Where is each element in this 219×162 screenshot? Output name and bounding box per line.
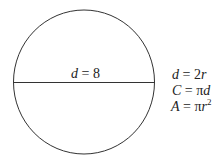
formula-diameter: d = 2r [172, 67, 207, 82]
formula-circumference: C = πd [172, 83, 211, 98]
formula-area: A = πr2 [170, 97, 212, 114]
diameter-label: d = 8 [71, 66, 100, 81]
circle-diagram: d = 8 d = 2r C = πd A = πr2 [0, 0, 219, 162]
